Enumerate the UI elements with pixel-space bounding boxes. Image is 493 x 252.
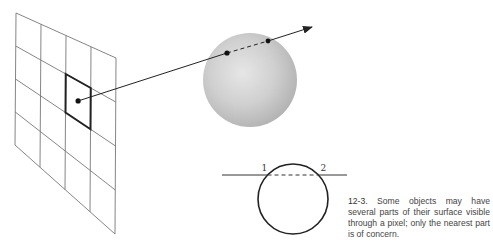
sphere-exit-point — [266, 39, 271, 44]
caption-text: Some objects may have several parts of t… — [348, 196, 490, 239]
sphere — [203, 33, 297, 127]
figure-caption: 12-3. Some objects may have several part… — [348, 196, 490, 240]
ray-solid-far — [268, 27, 312, 41]
pixel-grid — [15, 13, 116, 234]
cross-section-diagram: 1 2 — [222, 163, 347, 234]
sphere-entry-point — [224, 50, 229, 55]
figure-number: 12-3. — [348, 196, 368, 206]
intersection-label-1: 1 — [262, 163, 268, 173]
intersection-label-2: 2 — [320, 163, 326, 173]
